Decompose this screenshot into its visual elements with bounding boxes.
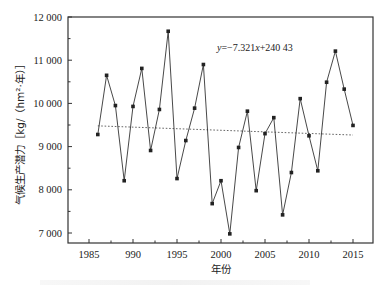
data-point-marker: [166, 29, 170, 33]
data-point-marker: [202, 63, 206, 67]
figure-caption-faint: [40, 280, 310, 285]
x-axis: 198599019952000200520102015: [79, 239, 364, 260]
y-tick-label: 9 000: [38, 141, 62, 152]
data-point-marker: [334, 49, 338, 53]
data-point-marker: [131, 105, 135, 109]
data-point-marker: [325, 80, 329, 84]
data-point-marker: [184, 139, 188, 143]
y-tick-label: 7 000: [38, 228, 62, 239]
x-tick-label: 1985: [79, 249, 100, 260]
data-point-marker: [281, 213, 285, 217]
data-point-marker: [246, 109, 250, 113]
data-point-marker: [96, 133, 100, 137]
x-tick-label: 2005: [255, 249, 276, 260]
data-point-marker: [254, 189, 258, 193]
data-point-marker: [237, 146, 241, 150]
y-tick-label: 11 000: [34, 55, 63, 66]
data-point-marker: [122, 179, 126, 183]
y-tick-label: 10 000: [33, 98, 62, 109]
data-line: [98, 31, 353, 234]
data-point-marker: [351, 124, 355, 128]
data-point-marker: [263, 132, 267, 136]
trend-line: [98, 126, 353, 135]
data-point-marker: [193, 106, 197, 110]
data-point-marker: [316, 169, 320, 173]
data-point-marker: [105, 74, 109, 78]
data-series: [96, 29, 355, 235]
data-point-marker: [149, 149, 153, 153]
data-point-marker: [158, 108, 162, 112]
data-point-marker: [298, 97, 302, 101]
x-tick-label: 990: [125, 249, 141, 260]
x-tick-label: 2015: [343, 249, 364, 260]
data-point-marker: [290, 171, 294, 175]
data-point-marker: [210, 202, 214, 206]
x-tick-label: 1995: [167, 249, 188, 260]
line-chart: 7 0008 0009 00010 00011 00012 000 198599…: [0, 0, 386, 287]
y-axis: 7 0008 0009 00010 00011 00012 000: [33, 12, 72, 239]
data-point-marker: [307, 134, 311, 138]
data-point-marker: [219, 179, 223, 183]
y-tick-label: 8 000: [38, 184, 62, 195]
regression-equation: y=−7.321x+240 43: [216, 42, 293, 53]
y-tick-label: 12 000: [33, 12, 62, 23]
data-point-marker: [228, 232, 232, 236]
data-point-marker: [342, 87, 346, 91]
data-point-marker: [272, 116, 276, 120]
x-tick-label: 2000: [211, 249, 232, 260]
x-tick-label: 2010: [299, 249, 320, 260]
y-axis-title: 气候生产潜力［kg/（hm²·年）］: [14, 59, 26, 205]
data-point-marker: [175, 177, 179, 181]
data-point-marker: [114, 104, 118, 108]
x-axis-title: 年份: [211, 263, 232, 275]
data-point-marker: [140, 67, 144, 71]
trend-line-path: [98, 126, 353, 135]
